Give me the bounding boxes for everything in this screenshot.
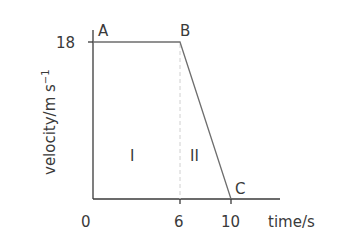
- y-axis-title-superscript: −1: [40, 69, 51, 84]
- point-label-b: B: [180, 22, 190, 40]
- svg-text:velocity/m s−1: velocity/m s−1: [40, 69, 59, 175]
- velocity-time-graph: A B C I II 18 0 6 10 time/s velocity/m s…: [0, 0, 341, 247]
- y-axis-title: velocity/m s: [41, 84, 59, 175]
- region-label-i: I: [130, 147, 134, 165]
- point-label-c: C: [235, 180, 245, 198]
- velocity-line: [93, 42, 231, 199]
- region-label-ii: II: [190, 147, 199, 165]
- point-label-a: A: [98, 22, 109, 40]
- x-tick-label-6: 6: [174, 213, 184, 231]
- x-tick-label-10: 10: [221, 213, 240, 231]
- y-axis-title-group: velocity/m s−1: [40, 69, 59, 175]
- x-axis-title: time/s: [268, 213, 315, 231]
- x-tick-label-0: 0: [81, 213, 91, 231]
- y-tick-label-18: 18: [56, 34, 75, 52]
